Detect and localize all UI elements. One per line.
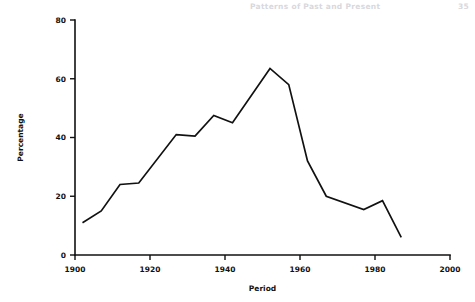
y-tick-label-20: 20: [56, 192, 66, 201]
page-header-number: 35: [458, 2, 475, 11]
x-tick-label-1940: 1940: [215, 265, 236, 274]
x-tick-label-1960: 1960: [290, 265, 311, 274]
y-tick-label-80: 80: [56, 16, 66, 25]
y-axis-title: Percentage: [16, 113, 25, 161]
chart-figure: Patterns of Past and Present 35 02040608…: [0, 0, 475, 302]
page-running-header: Patterns of Past and Present 35: [250, 0, 475, 12]
y-tick-label-0: 0: [61, 251, 66, 260]
x-tick-label-1920: 1920: [140, 265, 161, 274]
y-tick-label-40: 40: [56, 133, 66, 142]
page-header-title: Patterns of Past and Present: [250, 2, 380, 11]
x-axis-title: Period: [249, 284, 276, 293]
x-axis-tick-labels: 190019201940196019802000: [65, 265, 461, 274]
y-tick-label-60: 60: [56, 75, 66, 84]
line-chart-plot: 020406080 190019201940196019802000 Perio…: [0, 0, 475, 302]
x-tick-label-2000: 2000: [440, 265, 461, 274]
x-tick-label-1980: 1980: [365, 265, 386, 274]
data-series-line: [83, 68, 402, 237]
x-tick-label-1900: 1900: [65, 265, 86, 274]
y-axis-tick-labels: 020406080: [56, 16, 66, 260]
